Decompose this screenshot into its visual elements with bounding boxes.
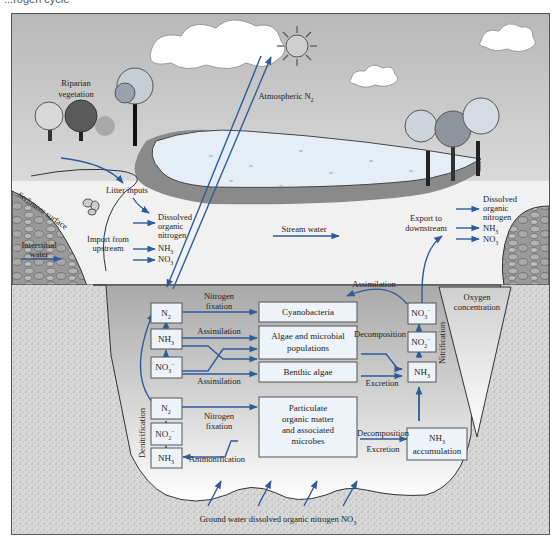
label-assimilation-1: Assimilation: [197, 326, 241, 336]
label-nitrification: Nitrification: [437, 321, 447, 364]
label-ammonification: Ammonification: [189, 454, 246, 464]
label-nitrogen-fixation-top-2: fixation: [206, 301, 233, 311]
sun-icon: [277, 26, 317, 66]
label-particulate-1: Particulate: [289, 403, 327, 413]
label-riparian-2: vegetation: [58, 89, 94, 99]
label-stream-water: Stream water: [281, 224, 326, 234]
label-decomposition: Decomposition: [354, 329, 407, 339]
figure-title-fragment: ...rogen cycle: [4, 0, 69, 5]
label-benthic: Benthic algae: [283, 367, 332, 377]
label-algae-2: populations: [287, 343, 329, 353]
label-import-2: upstream: [92, 243, 124, 253]
label-denitrification: Denitrification: [137, 407, 147, 458]
label-output-don-3: nitrogen: [483, 212, 512, 222]
label-litter-inputs: Litter inputs: [106, 185, 148, 195]
label-nitrogen-fixation-bottom-1: Nitrogen: [204, 411, 235, 421]
label-input-don-3: nitrogen: [158, 230, 187, 240]
nitrogen-cycle-diagram: Riparian vegetation Atmospheric N2 Litte…: [11, 13, 550, 535]
label-cyanobacteria: Cyanobacteria: [282, 307, 334, 317]
label-nitrogen-fixation-top-1: Nitrogen: [204, 291, 235, 301]
label-nitrogen-fixation-bottom-2: fixation: [206, 421, 233, 431]
label-oxygen-1: Oxygen: [464, 292, 492, 302]
label-algae-1: Algae and microbial: [271, 331, 345, 341]
label-export-1: Export to: [410, 213, 442, 223]
label-nh3-accum-2: accumulation: [413, 446, 462, 456]
label-particulate-2: organic matter: [282, 414, 334, 424]
label-interstitial-2: water: [30, 249, 49, 259]
label-particulate-3: and associated: [282, 425, 335, 435]
label-assimilation-2: Assimilation: [197, 376, 241, 386]
label-export-2: downstream: [405, 223, 447, 233]
label-oxygen-2: concentration: [454, 302, 501, 312]
label-excretion-2: Excretion: [366, 444, 400, 454]
label-particulate-4: microbes: [292, 436, 325, 446]
label-excretion: Excretion: [365, 378, 399, 388]
label-riparian-1: Riparian: [61, 78, 91, 88]
label-decomposition-2: Decomposition: [357, 428, 410, 438]
label-assimilation-top: Assimilation: [352, 279, 396, 289]
